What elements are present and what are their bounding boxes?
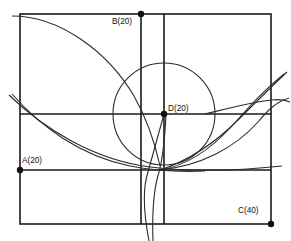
point-a-label: A(20) (22, 156, 42, 165)
point-c-dot (268, 221, 274, 227)
point-d-dot (161, 111, 167, 117)
rising-curve-a (160, 74, 284, 170)
point-a-dot (17, 167, 23, 173)
point-c-label: C(40) (238, 206, 259, 215)
point-d-label: D(20) (168, 104, 189, 113)
top-arc-curve (12, 16, 160, 166)
cusp-loop-left-curve (144, 114, 164, 241)
rising-curve-b (160, 72, 287, 170)
lower-sweep-curve (9, 95, 282, 170)
geometry-canvas: A(20) B(20) C(40) D(20) (0, 0, 291, 241)
far-right-tail-curve (205, 100, 290, 114)
point-b-dot (138, 11, 144, 17)
geometry-figure: A(20) B(20) C(40) D(20) (0, 0, 291, 241)
point-b-label: B(20) (112, 17, 132, 26)
